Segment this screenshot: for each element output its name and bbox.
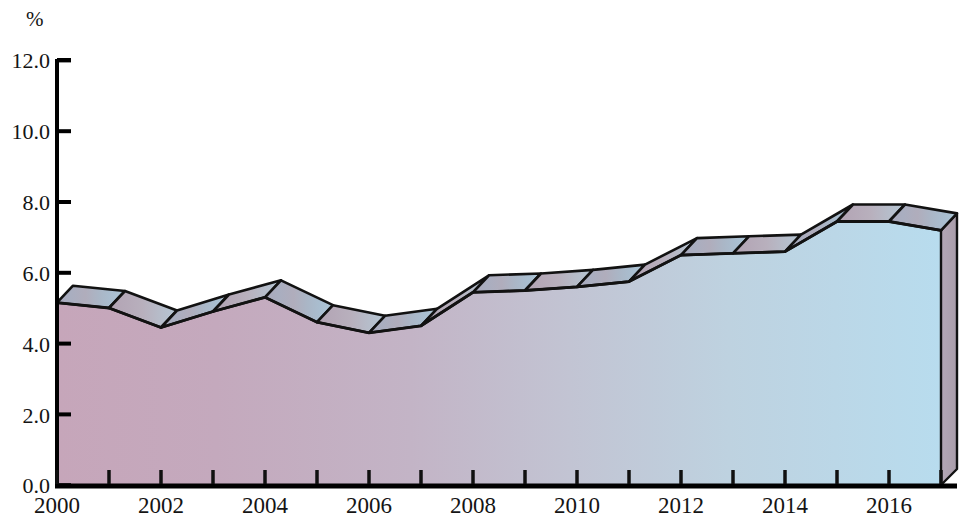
chart-container: % 12.0 10.0 8.0 6.0 4.0 2.0 0.0 2000 200… (0, 0, 959, 520)
x-tick-label-2012: 2012 (658, 493, 704, 518)
y-axis-tick-labels: 12.0 10.0 8.0 6.0 4.0 2.0 0.0 (12, 48, 51, 498)
x-tick-label-2008: 2008 (450, 493, 496, 518)
x-tick-label-2002: 2002 (138, 493, 184, 518)
y-tick-label-12: 12.0 (12, 48, 51, 73)
x-tick-label-2004: 2004 (242, 493, 289, 518)
x-axis-tick-labels: 2000 2002 2004 2006 2008 2010 2012 2014 … (34, 493, 912, 518)
y-tick-label-8: 8.0 (23, 190, 51, 215)
plot-area (57, 205, 957, 486)
area-fill-face (57, 222, 941, 486)
x-tick-label-2014: 2014 (762, 493, 809, 518)
y-axis-unit-label: % (26, 7, 44, 31)
area-side-face (941, 213, 957, 485)
x-tick-label-2000: 2000 (34, 493, 80, 518)
y-tick-label-2: 2.0 (23, 403, 51, 428)
y-tick-label-6: 6.0 (23, 261, 51, 286)
x-tick-label-2006: 2006 (346, 493, 392, 518)
x-tick-label-2010: 2010 (554, 493, 600, 518)
x-tick-label-2016: 2016 (866, 493, 912, 518)
area-chart: % 12.0 10.0 8.0 6.0 4.0 2.0 0.0 2000 200… (0, 0, 959, 520)
y-tick-label-10: 10.0 (12, 119, 51, 144)
y-tick-label-4: 4.0 (23, 332, 51, 357)
